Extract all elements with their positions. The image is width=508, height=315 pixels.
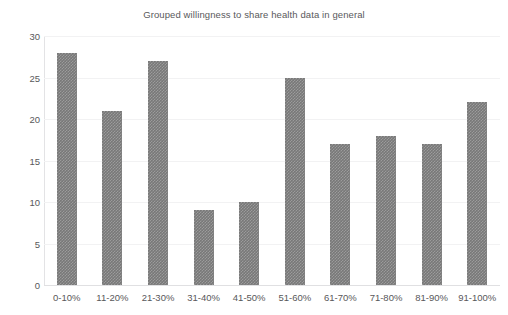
y-axis-tick-label: 5 xyxy=(6,238,40,249)
bar xyxy=(330,144,350,285)
bar xyxy=(239,202,259,285)
plot-area xyxy=(44,36,500,285)
gridline xyxy=(44,78,500,79)
gridline xyxy=(44,36,500,37)
y-axis-tick-label: 10 xyxy=(6,197,40,208)
y-axis-tick-label: 30 xyxy=(6,31,40,42)
bar xyxy=(57,53,77,285)
x-axis-tick-label: 21-30% xyxy=(142,292,175,303)
bar xyxy=(285,78,305,286)
x-axis-tick-label: 0-10% xyxy=(53,292,80,303)
x-axis-tick-label: 51-60% xyxy=(278,292,311,303)
x-axis-tick-label: 91-100% xyxy=(458,292,496,303)
bar xyxy=(102,111,122,285)
y-axis-tick-label: 0 xyxy=(6,280,40,291)
x-axis-tick-label: 11-20% xyxy=(96,292,128,303)
x-axis-tick-label: 31-40% xyxy=(187,292,220,303)
x-axis-tick-label: 81-90% xyxy=(415,292,448,303)
y-axis-tick-label: 20 xyxy=(6,114,40,125)
bar xyxy=(422,144,442,285)
bar xyxy=(194,210,214,285)
x-axis-tick-label: 41-50% xyxy=(233,292,266,303)
x-axis-tick-label: 61-70% xyxy=(324,292,357,303)
y-axis-tick-label: 15 xyxy=(6,155,40,166)
bar xyxy=(376,136,396,285)
bar xyxy=(148,61,168,285)
bar xyxy=(467,102,487,285)
bar-chart: Grouped willingness to share health data… xyxy=(0,0,508,315)
chart-title: Grouped willingness to share health data… xyxy=(0,9,508,20)
y-axis: 051015202530 xyxy=(0,0,40,315)
x-axis-tick-label: 71-80% xyxy=(370,292,403,303)
y-axis-tick-label: 25 xyxy=(6,72,40,83)
gridline xyxy=(44,285,500,286)
